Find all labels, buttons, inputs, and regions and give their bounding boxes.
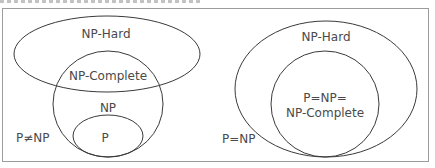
euler-diagram: NP-Hard NP-Complete NP P P≠NP NP-Hard P=… <box>0 0 435 168</box>
p-eq-np-condition-label: P=NP <box>222 132 256 146</box>
p-np-complete-label-line2: NP-Complete <box>286 106 364 120</box>
np-hard-label: NP-Hard <box>82 27 131 41</box>
np-hard-label: NP-Hard <box>302 30 351 44</box>
p-label: P <box>101 131 108 145</box>
left-diagram-p-neq-np: NP-Hard NP-Complete NP P P≠NP <box>14 16 200 157</box>
np-complete-label: NP-Complete <box>69 69 147 83</box>
np-label: NP <box>100 101 116 115</box>
p-neq-np-condition-label: P≠NP <box>16 131 50 145</box>
right-diagram-p-eq-np: NP-Hard P=NP= NP-Complete P=NP <box>222 21 417 157</box>
p-np-complete-label-line1: P=NP= <box>303 91 347 105</box>
